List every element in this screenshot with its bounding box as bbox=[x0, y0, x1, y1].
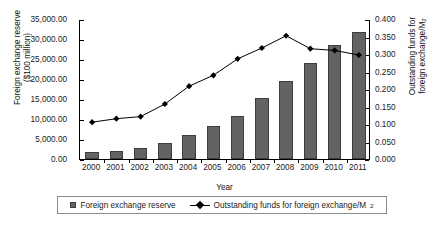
line-marker-diamond bbox=[356, 52, 362, 58]
y-axis-right-tick-label: 0.050 bbox=[375, 138, 396, 148]
line-series bbox=[80, 20, 371, 160]
legend-item-bar: Foreign exchange reserve bbox=[70, 201, 175, 210]
y-axis-left-tick-label: 15,000.00 bbox=[31, 95, 67, 105]
y-axis-left-tick-label: 30,000.00 bbox=[31, 35, 67, 45]
line-marker-diamond bbox=[332, 47, 338, 53]
y-axis-left-tick-label: 5,000.00 bbox=[35, 135, 67, 145]
chart-figure: Foreign exchange reserve ($100 million) … bbox=[0, 0, 443, 230]
line-marker-diamond bbox=[138, 114, 144, 120]
y-axis-left-tick-label: 0.00 bbox=[51, 155, 67, 165]
y-axis-right-tick-label: 0.150 bbox=[375, 103, 396, 113]
y-axis-right-title-subscript: 2 bbox=[420, 18, 427, 21]
line-marker-diamond bbox=[307, 46, 313, 52]
y-axis-right-title-line2: foreign exchange/M bbox=[418, 22, 427, 94]
x-axis-tick-label: 2011 bbox=[344, 163, 372, 172]
plot-area bbox=[79, 20, 370, 160]
y-axis-left-title-line1: Foreign exchange reserve bbox=[13, 10, 22, 105]
line-marker-diamond bbox=[259, 45, 265, 51]
y-axis-left-tick-label: 25,000.00 bbox=[31, 55, 67, 65]
y-axis-right-tickmark bbox=[365, 160, 369, 161]
y-axis-right-tick-label: 0.350 bbox=[375, 33, 396, 43]
line-marker-diamond bbox=[89, 119, 95, 125]
legend-item-line: Outstanding funds for foreign exchange/M… bbox=[190, 201, 374, 210]
line-marker-diamond bbox=[283, 33, 289, 39]
line-marker-diamond bbox=[210, 72, 216, 78]
x-axis-title: Year bbox=[79, 183, 370, 193]
y-axis-right-tick-label: 0.300 bbox=[375, 50, 396, 60]
y-axis-right-tick-label: 0.200 bbox=[375, 85, 396, 95]
y-axis-left-tick-label: 10,000.00 bbox=[31, 115, 67, 125]
y-axis-left-tick-label: 35,000.00 bbox=[31, 15, 67, 25]
y-axis-left-tickmark bbox=[80, 160, 84, 161]
line-marker-diamond bbox=[113, 116, 119, 122]
legend-item-line-subscript: 2 bbox=[370, 202, 373, 209]
y-axis-left-title: Foreign exchange reserve ($100 million) bbox=[13, 0, 32, 124]
y-axis-right-tick-label: 0.100 bbox=[375, 120, 396, 130]
legend-square-swatch-icon bbox=[70, 202, 76, 208]
chart-legend: Foreign exchange reserve Outstanding fun… bbox=[57, 196, 387, 214]
y-axis-right-title: Outstanding funds for foreign exchange/M… bbox=[408, 0, 428, 122]
legend-line-diamond-icon bbox=[190, 202, 210, 209]
line-path bbox=[92, 36, 359, 122]
line-marker-diamond bbox=[235, 56, 241, 62]
y-axis-right-tick-label: 0.400 bbox=[375, 15, 396, 25]
y-axis-right-title-line1: Outstanding funds for bbox=[408, 17, 417, 95]
y-axis-left-tick-label: 20,000.00 bbox=[31, 75, 67, 85]
y-axis-right-tick-label: 0.250 bbox=[375, 68, 396, 78]
legend-item-line-label: Outstanding funds for foreign exchange/M bbox=[214, 201, 366, 210]
y-axis-right-tick-label: 0.000 bbox=[375, 155, 396, 165]
legend-item-bar-label: Foreign exchange reserve bbox=[80, 201, 175, 210]
